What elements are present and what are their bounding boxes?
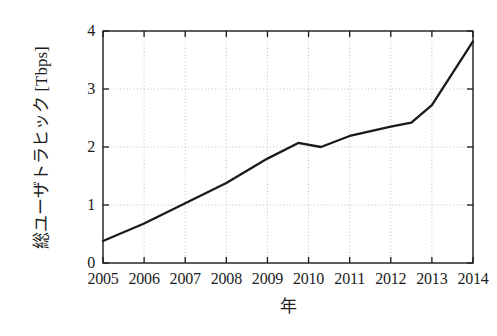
x-tick-label: 2007: [170, 271, 201, 287]
x-tick-label: 2009: [252, 271, 283, 287]
data-series-line: [103, 41, 473, 241]
y-tick-label: 3: [71, 81, 95, 97]
x-tick-label: 2008: [211, 271, 242, 287]
y-tick-label: 2: [71, 139, 95, 155]
y-tick-label: 1: [71, 197, 95, 213]
x-tick-label: 2011: [334, 271, 365, 287]
x-tick-label: 2010: [293, 271, 324, 287]
chart-figure: 2005200620072008200920102011201220132014…: [0, 0, 497, 336]
x-tick-label: 2012: [375, 271, 406, 287]
x-tick-label: 2005: [87, 271, 118, 287]
x-tick-label: 2014: [457, 271, 488, 287]
y-tick-label: 4: [71, 23, 95, 39]
y-axis-title-label: 総ユーザトラヒック [Tbps]: [33, 46, 50, 249]
x-tick-label: 2013: [416, 271, 447, 287]
y-tick-label: 0: [71, 255, 95, 271]
x-axis-title-label: 年: [280, 298, 297, 315]
y-axis-title: 総ユーザトラヒック [Tbps]: [26, 31, 56, 263]
x-tick-label: 2006: [129, 271, 160, 287]
